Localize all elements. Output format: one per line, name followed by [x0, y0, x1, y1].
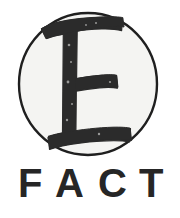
fact-logo: F A C T: [0, 0, 180, 218]
wordmark-svg: F A C T: [0, 161, 180, 203]
emblem-svg: [0, 0, 180, 162]
wordmark-letter-c: C: [98, 161, 127, 203]
wordmark-letter-a: A: [55, 161, 84, 203]
wordmark-fact: F A C T: [0, 161, 180, 203]
emblem-circle-with-e: [0, 0, 180, 162]
wordmark-letter-f: F: [18, 161, 42, 203]
wordmark-letter-t: T: [139, 161, 163, 203]
